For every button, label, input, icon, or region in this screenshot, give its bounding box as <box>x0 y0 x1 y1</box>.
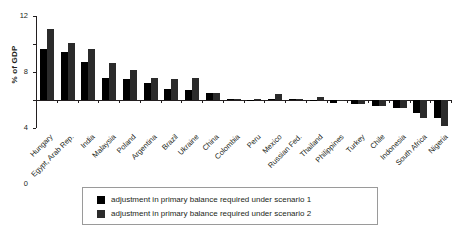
bar-group <box>206 16 220 128</box>
bar <box>227 99 234 100</box>
bar <box>185 90 192 100</box>
bar-group <box>144 16 158 128</box>
bar <box>109 63 116 100</box>
bar <box>379 100 386 106</box>
bar <box>337 100 344 101</box>
y-tick-label: 0 <box>24 180 28 188</box>
bar <box>192 78 199 100</box>
bar-group <box>372 16 386 128</box>
bar-group <box>268 16 282 128</box>
y-tick-label: 8 <box>24 68 28 76</box>
bar <box>234 99 241 100</box>
bar-group <box>102 16 116 128</box>
bar <box>102 78 109 100</box>
bar <box>40 49 47 100</box>
chart-legend: adjustment in primary balance required u… <box>82 187 378 225</box>
bar-group <box>123 16 137 128</box>
bar-group <box>61 16 75 128</box>
x-tick-mark <box>451 100 452 103</box>
bar <box>47 29 54 100</box>
legend-item-scenario-2: adjustment in primary balance required u… <box>97 207 377 221</box>
y-tick-label: 12 <box>20 12 28 20</box>
bar-group <box>289 16 303 128</box>
legend-item-scenario-1: adjustment in primary balance required u… <box>97 193 377 207</box>
bar-group <box>247 16 261 128</box>
legend-label-scenario-2: adjustment in primary balance required u… <box>111 210 311 218</box>
bar-group <box>310 16 324 128</box>
legend-label-scenario-1: adjustment in primary balance required u… <box>111 196 311 204</box>
x-category-label: Peru <box>246 133 263 150</box>
bar <box>151 78 158 100</box>
bar <box>247 100 254 101</box>
bar <box>61 52 68 100</box>
x-category-label: India <box>79 133 96 150</box>
x-category-label: Ukraine <box>176 133 200 157</box>
bar <box>275 94 282 100</box>
bar-groups <box>36 16 451 128</box>
bar-group <box>351 16 365 128</box>
bar <box>171 79 178 100</box>
bar-group <box>434 16 448 128</box>
x-category-label: Turkey <box>345 133 366 154</box>
plot-area: 12840-4 <box>36 16 451 128</box>
bar <box>254 99 261 100</box>
bar-group <box>81 16 95 128</box>
bar <box>206 93 213 100</box>
y-axis-title: % of GDP <box>10 37 19 93</box>
bar-group <box>393 16 407 128</box>
bar-group <box>164 16 178 128</box>
bar-group <box>185 16 199 128</box>
bar <box>434 100 441 118</box>
bar <box>330 100 337 103</box>
bar <box>441 100 448 126</box>
bar <box>130 70 137 100</box>
bar-group <box>40 16 54 128</box>
bar <box>372 100 379 106</box>
bar <box>289 99 296 100</box>
legend-swatch-scenario-2-icon <box>97 210 105 218</box>
bar <box>88 49 95 100</box>
bar <box>213 93 220 100</box>
bar-group <box>413 16 427 128</box>
legend-swatch-scenario-1-icon <box>97 196 105 204</box>
bar <box>164 89 171 100</box>
bar-group <box>330 16 344 128</box>
bar <box>310 100 317 101</box>
chart-figure: % of GDP 12840-4 HungaryEgypt, Arab Rep.… <box>0 0 460 232</box>
bar <box>358 100 365 104</box>
bar <box>123 79 130 100</box>
bar <box>413 100 420 113</box>
x-category-label: Nigeria <box>427 133 449 155</box>
bar <box>81 62 88 101</box>
bar <box>144 83 151 101</box>
y-tick-label: 4 <box>24 124 28 132</box>
bar <box>268 99 275 100</box>
bar <box>317 97 324 100</box>
bar <box>393 100 400 108</box>
bar <box>296 99 303 100</box>
bar <box>420 100 427 118</box>
bar-group <box>227 16 241 128</box>
bar <box>68 43 75 100</box>
y-tick-mark: -4 <box>33 128 36 129</box>
bar <box>351 100 358 104</box>
bar <box>400 100 407 108</box>
